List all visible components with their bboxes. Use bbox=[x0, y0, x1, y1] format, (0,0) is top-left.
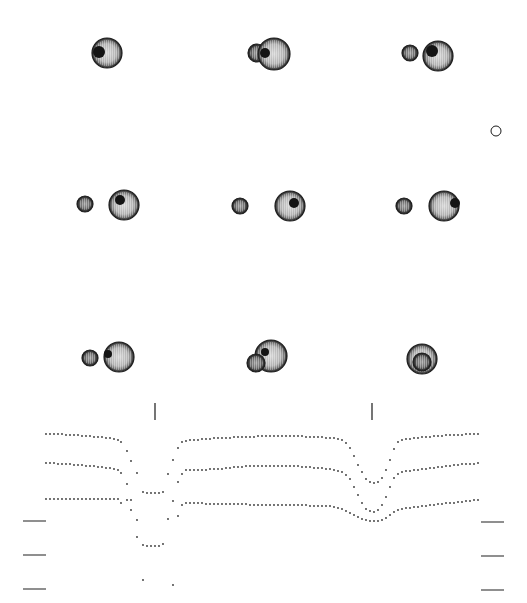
secondary-star-icon bbox=[396, 198, 412, 214]
starspot-icon bbox=[450, 198, 460, 208]
primary-star-icon bbox=[104, 342, 134, 372]
phase-panel-3 bbox=[402, 41, 453, 71]
secondary-star-icon bbox=[413, 353, 431, 371]
secondary-star-icon bbox=[247, 354, 265, 372]
phase-panel-7 bbox=[82, 342, 134, 372]
starspot-icon bbox=[104, 350, 112, 358]
reference-circle-icon bbox=[491, 126, 501, 136]
light-curve-1 bbox=[45, 433, 479, 494]
primary-star-icon bbox=[92, 38, 122, 68]
phase-panel-9 bbox=[407, 344, 437, 374]
primary-star-icon bbox=[275, 191, 305, 221]
starspot-icon bbox=[289, 198, 299, 208]
phase-panel-2 bbox=[248, 38, 290, 70]
secondary-star-icon bbox=[77, 196, 93, 212]
light-curves bbox=[45, 433, 479, 586]
secondary-star-icon bbox=[402, 45, 418, 61]
primary-star-icon bbox=[258, 38, 290, 70]
phase-panel-6 bbox=[396, 191, 460, 221]
primary-star-icon bbox=[423, 41, 453, 71]
starspot-icon bbox=[115, 195, 125, 205]
phase-panel-1 bbox=[92, 38, 122, 68]
orbital-phase-panels bbox=[77, 38, 460, 374]
phase-panel-8 bbox=[247, 340, 287, 372]
starspot-icon bbox=[261, 348, 269, 356]
primary-star-icon bbox=[429, 191, 460, 221]
starspot-icon bbox=[93, 46, 105, 58]
starspot-icon bbox=[260, 48, 270, 58]
figure-canvas bbox=[0, 0, 527, 603]
secondary-star-icon bbox=[232, 198, 248, 214]
phase-panel-5 bbox=[232, 191, 305, 221]
secondary-star-icon bbox=[82, 350, 98, 366]
primary-star-icon bbox=[109, 190, 139, 220]
light-curve-3 bbox=[45, 498, 479, 586]
phase-panel-4 bbox=[77, 190, 139, 220]
starspot-icon bbox=[426, 45, 438, 57]
